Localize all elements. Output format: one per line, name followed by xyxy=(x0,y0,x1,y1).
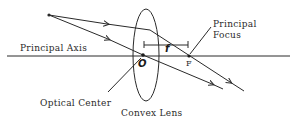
principal-focus-leader xyxy=(190,27,211,54)
focus-symbol: F xyxy=(186,59,192,68)
optical-center-label: Optical Center xyxy=(40,98,112,108)
principal-focus-label-1: Principal xyxy=(213,19,257,29)
refracted-ray-through-focus-cont xyxy=(230,82,244,91)
focus-point xyxy=(187,54,190,57)
convex-lens-label: Convex Lens xyxy=(121,108,183,118)
convex-lens-diagram: Principal Axis Principal Focus Optical C… xyxy=(0,0,294,119)
ray-through-center xyxy=(143,55,212,84)
convex-lens-shape xyxy=(133,9,159,101)
principal-focus-label-2: Focus xyxy=(213,30,241,40)
incident-ray-upper-cont xyxy=(107,24,150,30)
incident-ray-center xyxy=(49,15,108,39)
optical-center-point xyxy=(141,53,145,57)
incident-ray-upper xyxy=(49,15,107,24)
principal-axis-label: Principal Axis xyxy=(20,43,87,53)
incident-ray-center-cont xyxy=(108,39,143,55)
center-symbol: O xyxy=(138,58,147,69)
optical-center-leader xyxy=(108,58,141,92)
ray-through-center-cont xyxy=(212,84,223,89)
